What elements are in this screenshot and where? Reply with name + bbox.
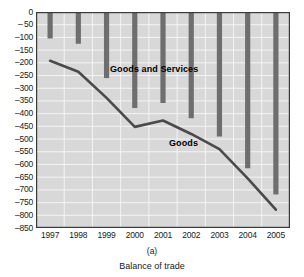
x-axis-tick-label: 1998 (63, 231, 93, 240)
bar (245, 12, 250, 168)
y-axis-tick-label: –750 (0, 198, 33, 207)
x-axis-tick-label: 1999 (92, 231, 122, 240)
plot-area: Goods and Services Goods (36, 12, 290, 228)
y-axis-tick-label: –300 (0, 84, 33, 93)
y-axis-tick-label: –350 (0, 96, 33, 105)
bar (132, 12, 137, 108)
bar (273, 12, 278, 194)
y-axis-tick-label: –500 (0, 135, 33, 144)
caption-subfigure-label: (a) (0, 246, 304, 256)
x-axis-tick-label: 2001 (148, 231, 178, 240)
y-axis-tick-label: –800 (0, 211, 33, 220)
bar (217, 12, 222, 137)
y-axis: 0– 50–100–150–200–250–300–350–400–450–50… (0, 12, 33, 228)
chart-figure: 0– 50–100–150–200–250–300–350–400–450–50… (0, 0, 304, 277)
bar (76, 12, 81, 44)
y-axis-tick-label: –150 (0, 46, 33, 55)
y-axis-tick-label: –450 (0, 122, 33, 131)
y-axis-tick-label: –400 (0, 109, 33, 118)
x-axis-tick-label: 2000 (120, 231, 150, 240)
series-label-goods: Goods (169, 138, 198, 148)
y-axis-tick-label: –100 (0, 33, 33, 42)
y-axis-tick-label: –200 (0, 58, 33, 67)
y-axis-tick-label: –250 (0, 71, 33, 80)
x-axis-tick-label: 2005 (261, 231, 291, 240)
caption-title: Balance of trade (0, 261, 304, 271)
y-axis-tick-label: –700 (0, 185, 33, 194)
balance-of-trade-chart (36, 12, 290, 228)
x-axis: 199719981999200020012002200320042005 (36, 231, 290, 245)
bar (160, 12, 165, 103)
y-axis-tick-label: – 50 (0, 20, 33, 29)
bar (48, 12, 53, 38)
y-axis-tick-label: –850 (0, 224, 33, 233)
y-axis-tick-label: 0 (0, 8, 33, 17)
y-axis-tick-label: –550 (0, 147, 33, 156)
y-axis-tick-label: –600 (0, 160, 33, 169)
x-axis-tick-label: 2004 (233, 231, 263, 240)
x-axis-tick-label: 1997 (35, 231, 65, 240)
series-label-goods-and-services: Goods and Services (110, 64, 198, 74)
x-axis-tick-label: 2003 (204, 231, 234, 240)
y-axis-tick-label: –650 (0, 173, 33, 182)
bar (104, 12, 109, 78)
x-axis-tick-label: 2002 (176, 231, 206, 240)
